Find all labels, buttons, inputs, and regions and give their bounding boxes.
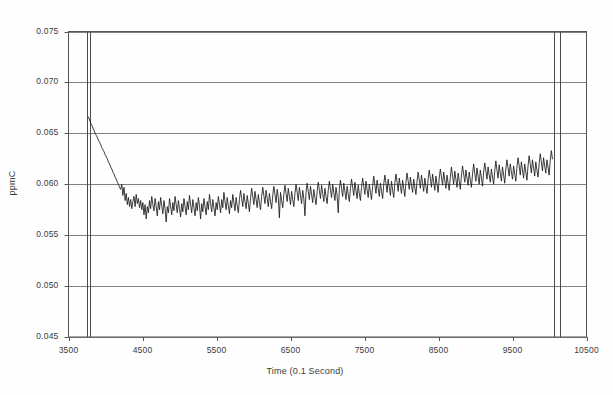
x-axis-title: Time (0.1 Second) [175,366,435,376]
gridlines-group [69,33,587,338]
y-tick-label: 0.070 [19,76,59,86]
chart-figure: 0.0450.0500.0550.0600.0650.0700.075 3500… [0,0,613,395]
x-tickmarks-group [65,33,588,342]
x-tick-label: 3500 [39,345,99,355]
x-tick-label: 9500 [483,345,543,355]
y-tick-label: 0.075 [19,26,59,36]
y-tick-label: 0.065 [19,127,59,137]
y-tick-label: 0.050 [19,280,59,290]
data-series-line [88,117,552,222]
x-tick-label: 8500 [409,345,469,355]
x-tick-label: 10500 [557,345,613,355]
x-tick-label: 4500 [113,345,173,355]
y-tick-label: 0.060 [19,178,59,188]
x-tick-label: 7500 [335,345,395,355]
x-tick-label: 5500 [187,345,247,355]
y-axis-title: ppmC [7,160,17,206]
y-tick-label: 0.055 [19,229,59,239]
x-tick-label: 6500 [261,345,321,355]
y-tick-label: 0.045 [19,331,59,341]
plot-canvas [0,0,613,395]
